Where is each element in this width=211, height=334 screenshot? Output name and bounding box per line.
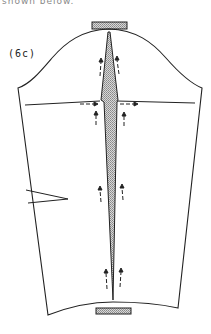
top-extension-rect <box>92 22 127 29</box>
arrow-icon <box>115 56 119 74</box>
arrow-icon <box>120 184 124 200</box>
biceps-line-right <box>117 101 195 103</box>
arrow-icon <box>104 269 108 289</box>
arrow-icon <box>98 186 102 202</box>
arrow-icon <box>99 58 103 76</box>
arrow-icon <box>120 102 138 106</box>
bottom-extension-rect <box>96 308 131 314</box>
arrow-icon <box>119 268 123 287</box>
arrow-icon <box>80 102 98 106</box>
arrow-icon <box>94 111 98 125</box>
sleeve-pattern-diagram <box>0 0 211 334</box>
arrow-icon <box>122 112 126 126</box>
center-spread-wedge <box>101 32 118 300</box>
